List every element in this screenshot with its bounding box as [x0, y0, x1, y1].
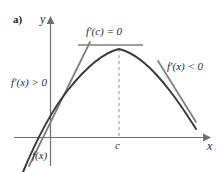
- annotation-curve-label: f(x): [32, 150, 47, 161]
- annotation-derivative-zero: f′(c) = 0: [86, 26, 122, 37]
- y-axis-label: y: [40, 13, 45, 25]
- y-axis: [47, 16, 55, 166]
- annotation-derivative-positive: f′(x) > 0: [11, 77, 47, 88]
- panel-label: a): [13, 14, 22, 25]
- annotation-derivative-negative: f′(x) < 0: [167, 61, 203, 72]
- x-axis-label: x: [207, 140, 212, 152]
- figure-container: a) y x c f′(c) = 0 f′(x) > 0 f′(x) < 0 f…: [0, 0, 224, 172]
- critical-point-tick-label: c: [115, 140, 120, 151]
- y-axis-arrowhead: [47, 16, 55, 24]
- tangent-line-left: [29, 42, 90, 166]
